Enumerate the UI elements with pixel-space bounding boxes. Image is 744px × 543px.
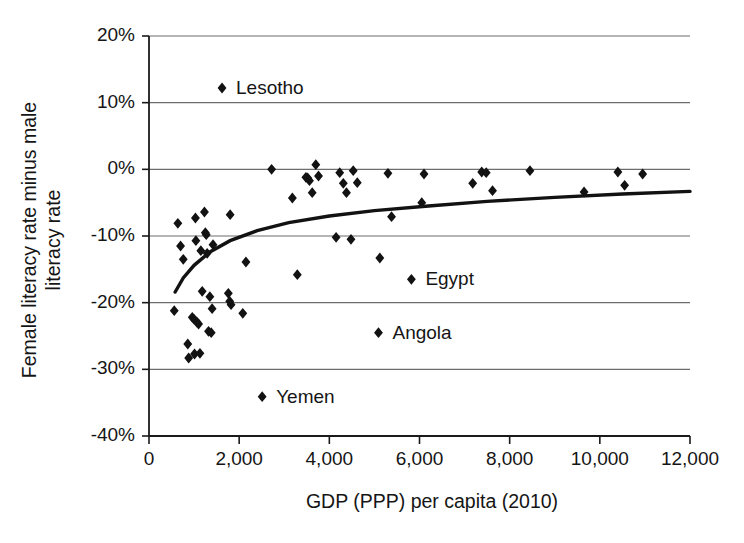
- data-point-marker: [238, 308, 247, 319]
- data-point-marker: [638, 169, 647, 180]
- data-point-marker: [375, 253, 384, 264]
- x-tick-label: 12,000: [661, 448, 719, 469]
- x-tick-label: 8,000: [486, 448, 534, 469]
- data-point-marker: [293, 269, 302, 280]
- data-point-marker: [387, 211, 396, 222]
- point-label: Angola: [392, 322, 452, 343]
- annotated-point: Yemen: [258, 386, 335, 407]
- x-tick-label: 4,000: [306, 448, 354, 469]
- data-point-marker: [183, 339, 192, 350]
- data-point-marker: [198, 286, 207, 297]
- data-point-marker: [267, 164, 276, 175]
- x-tick-label: 2,000: [215, 448, 263, 469]
- data-point-marker: [191, 235, 200, 246]
- chart-canvas: 20%10%0%-10%-20%-30%-40% 02,0004,0006,00…: [0, 0, 744, 543]
- data-point-marker: [170, 305, 179, 316]
- x-axis-title: GDP (PPP) per capita (2010): [306, 490, 558, 512]
- data-point-marker: [613, 167, 622, 178]
- annotated-point: Lesotho: [218, 77, 304, 98]
- data-point-marker: [205, 291, 214, 302]
- y-tick-label: -20%: [91, 291, 135, 312]
- data-point-marker: [420, 169, 429, 180]
- x-tick-label: 10,000: [571, 448, 629, 469]
- data-point-marker: [173, 218, 182, 229]
- data-point-marker: [196, 348, 205, 359]
- data-point-marker: [226, 209, 235, 220]
- y-axis-title-line-2: literacy rate: [42, 190, 64, 291]
- data-point-marker: [224, 288, 233, 299]
- data-point-marker: [208, 303, 217, 314]
- data-point-marker: [311, 159, 320, 170]
- point-annotations-group: LesothoEgyptAngolaYemen: [218, 77, 475, 407]
- x-tick-label: 0: [144, 448, 155, 469]
- data-point-marker: [314, 171, 323, 182]
- data-point-marker: [620, 180, 629, 191]
- point-label: Lesotho: [236, 77, 304, 98]
- x-tick-label: 6,000: [396, 448, 444, 469]
- annotated-point-marker: [374, 327, 383, 338]
- annotated-point-marker: [218, 83, 227, 94]
- data-point-marker: [179, 254, 188, 265]
- data-point-marker: [339, 178, 348, 189]
- annotated-point-marker: [258, 391, 267, 402]
- data-point-marker: [242, 257, 251, 268]
- annotated-point: Egypt: [407, 268, 475, 289]
- point-label: Egypt: [425, 268, 474, 289]
- scatter-chart: 20%10%0%-10%-20%-30%-40% 02,0004,0006,00…: [0, 0, 744, 543]
- y-tick-label: -30%: [91, 357, 135, 378]
- data-point-marker: [332, 232, 341, 243]
- y-tick-label: 0%: [108, 157, 136, 178]
- data-point-marker: [349, 165, 358, 176]
- annotated-point-marker: [407, 274, 416, 285]
- point-label: Yemen: [276, 386, 334, 407]
- data-point-marker: [342, 187, 351, 198]
- data-point-marker: [526, 165, 535, 176]
- data-point-marker: [200, 207, 209, 218]
- y-axis-title-line-1: Female literacy rate minus male: [18, 102, 40, 378]
- data-point-marker: [308, 187, 317, 198]
- x-tick-labels: 02,0004,0006,0008,00010,00012,000: [144, 448, 719, 469]
- data-point-marker: [353, 177, 362, 188]
- data-point-marker: [488, 185, 497, 196]
- y-tick-label: 10%: [97, 91, 135, 112]
- tickmarks-group: [142, 36, 690, 444]
- data-point-marker: [468, 178, 477, 189]
- gridlines-group: [149, 36, 690, 436]
- data-point-marker: [288, 193, 297, 204]
- y-tick-label: 20%: [97, 24, 135, 45]
- data-point-marker: [191, 213, 200, 224]
- data-point-marker: [176, 241, 185, 252]
- y-tick-label: -10%: [91, 224, 135, 245]
- annotated-point: Angola: [374, 322, 452, 343]
- y-tick-label: -40%: [91, 424, 135, 445]
- y-tick-labels: 20%10%0%-10%-20%-30%-40%: [91, 24, 135, 445]
